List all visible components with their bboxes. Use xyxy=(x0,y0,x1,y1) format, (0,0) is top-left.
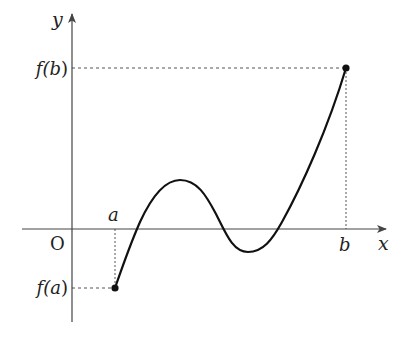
fb-label-close: ) xyxy=(61,58,68,79)
fa-label-open: f( xyxy=(35,277,52,298)
fa-label: f(a) xyxy=(35,277,68,298)
function-curve xyxy=(115,68,346,288)
fb-label-open: f( xyxy=(34,58,51,79)
a-label: a xyxy=(108,204,119,225)
b-label: b xyxy=(339,234,351,255)
endpoint-b-dot xyxy=(342,64,349,71)
fb-label-var: b xyxy=(49,58,61,79)
x-axis-label: x xyxy=(378,232,389,254)
origin-label: O xyxy=(50,233,65,254)
y-axis-label: y xyxy=(51,8,63,30)
endpoint-a-dot xyxy=(111,284,118,291)
function-graph: y x O a b f(b) f(a) xyxy=(0,0,413,338)
fa-label-close: ) xyxy=(61,277,68,298)
fb-label: f(b) xyxy=(34,58,68,79)
fa-label-var: a xyxy=(50,277,61,298)
